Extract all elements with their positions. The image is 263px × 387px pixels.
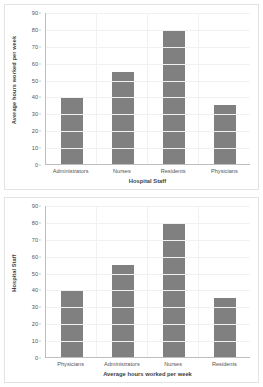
gridline [46,290,250,291]
gridline [46,341,250,342]
y-tick-mark [39,114,41,115]
y-tick-label: 0 [35,162,38,168]
y-axis-title-top-text: Average hours worked per week [11,36,17,125]
y-tick-mark [39,341,41,342]
gridline [46,47,250,48]
bar [112,265,134,357]
x-axis-line-bottom [46,357,250,358]
bar [112,72,134,164]
chart-sheet: Average hours worked per week 9080706050… [0,0,263,387]
gridline [46,131,250,132]
x-axis-title-bottom: Average hours worked per week [45,371,250,377]
y-tick-label: 10 [32,338,38,344]
y-tick-mark [39,239,41,240]
bar-chart-top: Average hours worked per week 9080706050… [4,4,259,190]
bar-cell [97,206,148,357]
y-axis-ticks-bottom: 9080706050403020100 [19,206,41,358]
y-tick-mark [39,148,41,149]
gridline [46,223,250,224]
y-tick-mark [39,46,41,47]
y-tick-mark [39,29,41,30]
gridline [46,206,250,207]
y-tick-label: 60 [32,61,38,67]
y-tick-mark [39,307,41,308]
bar-chart-bottom: Hospital Staff 9080706050403020100 Physi… [4,197,259,383]
y-tick-label: 40 [32,287,38,293]
y-tick-label: 20 [32,128,38,134]
y-tick-label: 70 [32,237,38,243]
plot-wrapper-top: Average hours worked per week 9080706050… [5,5,258,189]
gridline [46,114,250,115]
y-tick-mark [39,131,41,132]
gridline [46,240,250,241]
bar-cell [46,13,97,164]
y-tick-mark [39,222,41,223]
y-tick-label: 10 [32,145,38,151]
gridline [46,81,250,82]
bar-cell [148,13,199,164]
y-tick-label: 0 [35,355,38,361]
y-tick-label: 90 [32,10,38,16]
y-tick-mark [39,206,41,207]
y-tick-mark [39,256,41,257]
plot-wrapper-bottom: Hospital Staff 9080706050403020100 Physi… [5,198,258,382]
x-axis-title-top: Hospital Staff [45,178,250,184]
plot-area-bottom [45,206,250,358]
y-tick-mark [39,165,41,166]
gridline [46,324,250,325]
y-tick-mark [39,80,41,81]
y-tick-label: 20 [32,321,38,327]
bar-cell [199,206,250,357]
y-tick-mark [39,324,41,325]
y-tick-mark [39,273,41,274]
y-tick-label: 50 [32,78,38,84]
y-tick-mark [39,358,41,359]
bar-group-top [46,13,250,164]
bar-cell [46,206,97,357]
y-tick-label: 80 [32,27,38,33]
bar-cell [97,13,148,164]
bar-cell [148,206,199,357]
plot-area-top [45,13,250,165]
bar-group-bottom [46,206,250,357]
y-axis-ticks-top: 9080706050403020100 [19,13,41,165]
y-tick-label: 30 [32,111,38,117]
x-axis-line-top [46,164,250,165]
gridline [46,274,250,275]
gridline [46,64,250,65]
y-tick-label: 80 [32,220,38,226]
y-tick-label: 90 [32,203,38,209]
y-tick-label: 70 [32,44,38,50]
bar-cell [199,13,250,164]
y-tick-mark [39,290,41,291]
y-tick-label: 60 [32,254,38,260]
y-tick-label: 50 [32,271,38,277]
y-axis-title-bottom-text: Hospital Staff [11,254,17,291]
gridline [46,97,250,98]
gridline [46,13,250,14]
y-tick-mark [39,97,41,98]
y-tick-label: 40 [32,94,38,100]
gridline [46,30,250,31]
y-tick-label: 30 [32,304,38,310]
gridline [46,307,250,308]
gridline [46,257,250,258]
y-tick-mark [39,13,41,14]
y-tick-mark [39,63,41,64]
gridline [46,148,250,149]
